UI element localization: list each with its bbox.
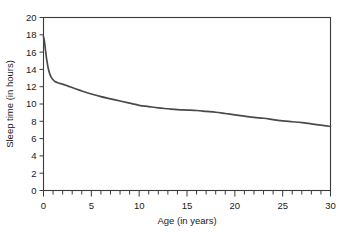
x-tick-label: 25 [277, 200, 288, 211]
y-axis-title: Sleep time (in hours) [4, 60, 15, 148]
data-series-group [44, 37, 331, 127]
x-tick-label: 15 [182, 200, 193, 211]
x-tick-label: 10 [134, 200, 145, 211]
y-tick-label: 2 [31, 168, 36, 179]
x-axis-ticks [44, 191, 331, 197]
y-tick-label: 8 [31, 116, 36, 127]
y-tick-label: 0 [31, 185, 36, 196]
y-tick-label: 16 [26, 47, 37, 58]
y-tick-label: 6 [31, 133, 36, 144]
y-tick-label: 18 [26, 29, 37, 40]
y-tick-label: 14 [26, 64, 37, 75]
x-axis-title: Age (in years) [157, 215, 216, 226]
y-axis-ticks [40, 18, 44, 191]
sleep-time-line [44, 37, 331, 127]
x-axis-tick-labels: 051015202530 [41, 200, 336, 211]
y-tick-label: 12 [26, 81, 37, 92]
y-axis-tick-labels: 02468101214161820 [26, 12, 37, 196]
chart-canvas: 02468101214161820 051015202530 Age (in y… [0, 0, 342, 232]
y-tick-label: 20 [26, 12, 37, 23]
x-tick-label: 5 [89, 200, 94, 211]
plot-frame [44, 18, 331, 191]
sleep-time-chart-figure: 02468101214161820 051015202530 Age (in y… [0, 0, 342, 232]
y-tick-label: 10 [26, 98, 37, 109]
y-tick-label: 4 [31, 150, 36, 161]
x-tick-label: 0 [41, 200, 46, 211]
x-tick-label: 30 [325, 200, 336, 211]
x-tick-label: 20 [230, 200, 241, 211]
